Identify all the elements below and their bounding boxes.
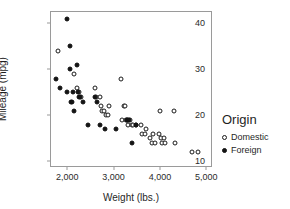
data-point-foreign bbox=[69, 99, 74, 104]
data-point-foreign bbox=[67, 44, 72, 49]
y-axis-tick-label: 20 bbox=[195, 110, 205, 120]
x-axis-title: Weight (lbs.) bbox=[103, 192, 159, 203]
data-point-foreign bbox=[65, 90, 70, 95]
data-point-domestic bbox=[72, 72, 77, 77]
legend-item-label: Foreign bbox=[231, 145, 262, 155]
y-axis-tick bbox=[47, 69, 51, 70]
y-axis-tick bbox=[47, 23, 51, 24]
scatter-plot-figure: Mileage (mpg) 102030402,0003,0004,0005,0… bbox=[0, 0, 290, 209]
legend-item-foreign[interactable]: Foreign bbox=[222, 145, 288, 155]
filled-circle-marker-icon bbox=[222, 148, 227, 153]
data-point-foreign bbox=[95, 99, 100, 104]
y-axis-tick-label: 40 bbox=[195, 18, 205, 28]
legend: Origin Domestic Foreign bbox=[222, 112, 288, 158]
data-point-domestic bbox=[171, 108, 176, 113]
data-point-domestic bbox=[157, 108, 162, 113]
data-point-foreign bbox=[113, 127, 118, 132]
x-axis-tick-label: 2,000 bbox=[56, 172, 79, 182]
data-point-foreign bbox=[68, 67, 73, 72]
y-axis-tick-label: 10 bbox=[195, 156, 205, 166]
data-point-domestic bbox=[190, 150, 195, 155]
data-point-foreign bbox=[74, 62, 79, 67]
x-axis-tick bbox=[113, 166, 114, 170]
x-axis-tick-label: 4,000 bbox=[149, 172, 172, 182]
data-point-foreign bbox=[72, 108, 77, 113]
data-point-domestic bbox=[93, 85, 98, 90]
data-point-domestic bbox=[143, 131, 148, 136]
data-point-domestic bbox=[139, 122, 144, 127]
data-point-domestic bbox=[123, 104, 128, 109]
data-point-foreign bbox=[65, 16, 70, 21]
data-point-domestic bbox=[196, 150, 201, 155]
y-axis-tick-label: 30 bbox=[195, 64, 205, 74]
data-point-foreign bbox=[86, 122, 91, 127]
x-axis-tick bbox=[206, 166, 207, 170]
plot-area: 102030402,0003,0004,0005,000 bbox=[50, 11, 212, 167]
data-point-domestic bbox=[173, 141, 178, 146]
data-point-domestic bbox=[118, 76, 123, 81]
y-axis-tick bbox=[47, 161, 51, 162]
data-point-domestic bbox=[106, 104, 111, 109]
data-point-foreign bbox=[130, 141, 135, 146]
data-point-domestic bbox=[55, 49, 60, 54]
data-point-domestic bbox=[151, 131, 156, 136]
data-point-domestic bbox=[106, 113, 111, 118]
data-point-domestic bbox=[153, 141, 158, 146]
data-point-foreign bbox=[58, 85, 63, 90]
data-point-domestic bbox=[144, 127, 149, 132]
y-axis-tick bbox=[47, 115, 51, 116]
y-axis-title: Mileage (mpg) bbox=[0, 57, 8, 121]
legend-item-domestic[interactable]: Domestic bbox=[222, 132, 288, 142]
data-points-layer bbox=[51, 12, 211, 166]
data-point-foreign bbox=[81, 99, 86, 104]
data-point-foreign bbox=[54, 76, 59, 81]
x-axis-tick bbox=[67, 166, 68, 170]
data-point-foreign bbox=[103, 127, 108, 132]
open-circle-marker-icon bbox=[222, 135, 227, 140]
data-point-foreign bbox=[133, 122, 138, 127]
data-point-domestic bbox=[162, 141, 167, 146]
legend-title: Origin bbox=[222, 112, 288, 127]
data-point-foreign bbox=[97, 122, 102, 127]
x-axis-tick-label: 5,000 bbox=[195, 172, 218, 182]
legend-item-label: Domestic bbox=[231, 132, 269, 142]
x-axis-tick-label: 3,000 bbox=[102, 172, 125, 182]
x-axis-tick bbox=[159, 166, 160, 170]
data-point-foreign bbox=[127, 118, 132, 123]
